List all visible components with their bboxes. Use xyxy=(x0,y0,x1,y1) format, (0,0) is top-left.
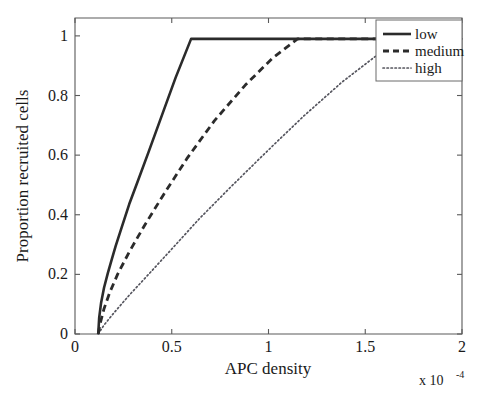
legend: low medium high xyxy=(376,20,464,81)
x-axis-multiplier-base: x 10 xyxy=(419,373,444,388)
x-tick-label: 2 xyxy=(458,338,466,355)
y-tick-label: 0.6 xyxy=(48,146,68,163)
series-line-low xyxy=(98,39,462,334)
y-axis-title: Proportion recruited cells xyxy=(13,90,32,263)
x-tick-label: 0.5 xyxy=(162,338,182,355)
series-line-medium xyxy=(98,39,462,334)
series-line-high xyxy=(98,39,462,334)
x-tick-label: 1.5 xyxy=(355,338,375,355)
x-tick-label: 0 xyxy=(71,338,79,355)
figure-container: 00.511.52 00.20.40.60.81 APC density Pro… xyxy=(0,0,486,393)
y-tick-label: 0 xyxy=(60,325,68,342)
legend-label-medium: medium xyxy=(415,43,464,59)
y-tick-label: 0.2 xyxy=(48,265,68,282)
x-axis-multiplier-exponent: -4 xyxy=(456,369,464,380)
x-axis-tick-labels: 00.511.52 xyxy=(71,338,466,355)
y-tick-label: 1 xyxy=(60,27,68,44)
y-tick-label: 0.4 xyxy=(48,206,68,223)
y-tick-label: 0.8 xyxy=(48,87,68,104)
x-axis-multiplier: x 10 -4 xyxy=(419,369,464,388)
legend-label-high: high xyxy=(415,60,442,76)
x-tick-label: 1 xyxy=(265,338,273,355)
legend-label-low: low xyxy=(415,26,438,42)
y-axis-tick-labels: 00.20.40.60.81 xyxy=(48,27,68,342)
x-axis-title: APC density xyxy=(225,359,312,378)
line-chart: 00.511.52 00.20.40.60.81 APC density Pro… xyxy=(0,0,486,393)
